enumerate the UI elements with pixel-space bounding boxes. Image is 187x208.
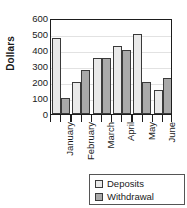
plot-area xyxy=(50,19,172,115)
y-axis-tick-label: 400 xyxy=(32,46,48,56)
bar-withdrawal xyxy=(122,50,131,114)
x-axis-label-june: June xyxy=(166,122,177,143)
legend-swatch-deposits-icon xyxy=(95,180,103,188)
legend-label-deposits: Deposits xyxy=(107,179,144,189)
x-axis-tick-mark xyxy=(162,115,163,122)
chart-legend: Deposits Withdrawal xyxy=(89,174,185,205)
x-axis-tick-mark xyxy=(142,115,143,122)
bar-withdrawal xyxy=(61,98,70,114)
x-axis-tick-mark xyxy=(91,115,92,122)
y-axis-tick-labels: 0100200300400500600 xyxy=(21,14,48,115)
bar-series-container xyxy=(51,20,171,114)
bar-chart-figure: Dollars 0100200300400500600 JanuaryFebru… xyxy=(0,0,187,208)
x-axis-tick-mark xyxy=(101,115,102,122)
bar-group xyxy=(153,20,172,114)
x-axis-tick-mark xyxy=(111,115,112,122)
x-axis-tick-mark xyxy=(81,115,82,122)
bar-withdrawal xyxy=(81,70,90,114)
bar-deposits xyxy=(113,46,122,114)
x-axis-tick-mark xyxy=(121,115,122,122)
x-axis-tick-mark xyxy=(131,115,132,122)
x-axis-tick-mark xyxy=(60,115,61,122)
y-axis-tick-label: 100 xyxy=(32,94,48,104)
y-axis-title: Dollars xyxy=(5,31,16,77)
bar-withdrawal xyxy=(163,78,172,114)
x-axis-tick-mark xyxy=(50,115,51,122)
x-axis-label-april: April xyxy=(125,122,136,141)
bar-group xyxy=(132,20,152,114)
bar-deposits xyxy=(133,34,142,114)
bar-group xyxy=(71,20,91,114)
x-axis-tick-mark xyxy=(171,115,172,122)
legend-swatch-withdrawal-icon xyxy=(95,193,103,201)
legend-item-withdrawal: Withdrawal xyxy=(95,190,184,203)
y-axis-tick-label: 300 xyxy=(32,62,48,72)
y-axis-tick-label: 0 xyxy=(43,110,48,120)
bar-deposits xyxy=(52,38,61,114)
x-axis-label-january: January xyxy=(64,122,75,156)
x-axis-tick-mark xyxy=(152,115,153,122)
bar-withdrawal xyxy=(142,82,151,114)
legend-item-deposits: Deposits xyxy=(95,177,184,190)
legend-label-withdrawal: Withdrawal xyxy=(107,192,154,202)
bar-deposits xyxy=(93,58,102,114)
y-axis-tick-label: 200 xyxy=(32,78,48,88)
y-axis-tick-label: 600 xyxy=(32,14,48,24)
x-axis-label-may: May xyxy=(146,122,157,140)
bar-group xyxy=(112,20,132,114)
bar-group xyxy=(51,20,71,114)
bar-group xyxy=(92,20,112,114)
bar-deposits xyxy=(154,90,163,114)
y-axis-tick-label: 500 xyxy=(32,30,48,40)
bar-withdrawal xyxy=(102,58,111,114)
bar-deposits xyxy=(72,82,81,114)
x-axis-label-february: February xyxy=(85,122,96,160)
x-axis-label-march: March xyxy=(105,122,116,148)
x-axis-category-labels: JanuaryFebruaryMarchAprilMayJune xyxy=(50,122,172,168)
